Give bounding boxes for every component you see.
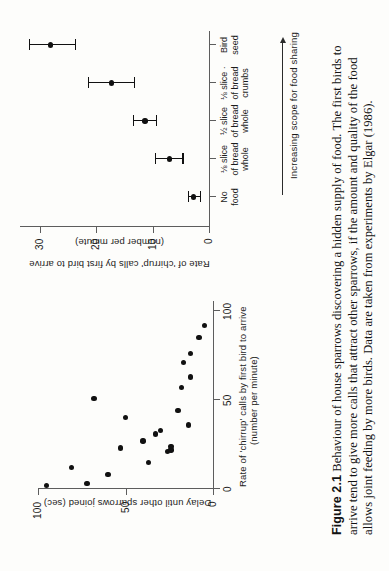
scatter-data-point (69, 465, 74, 470)
scatter-data-point (168, 444, 173, 449)
increasing-scope-arrow-label: Increasing scope for food sharing (288, 32, 299, 179)
errorbar-category-tick (210, 82, 216, 83)
scatter-data-point (153, 431, 158, 436)
errorbar-category-label: ⅛ slice ·of breadcrumbs (219, 61, 251, 105)
errorbar-category-label-line: of bread (230, 137, 241, 181)
errorbar-category-tick (210, 196, 216, 197)
scatter-plot-panel: 0 50 100 0 50 100 Rate of 'chirrup' call… (24, 291, 254, 531)
scatter-data-point (123, 415, 128, 420)
errorbar-category-label-line: ⅛ slice (219, 137, 230, 181)
errorbar-mean-marker (142, 118, 147, 123)
figure-caption-text: Behaviour of house sparrows discovering … (330, 45, 375, 535)
scatter-data-point (196, 335, 201, 340)
errorbar-cap-lower (134, 77, 135, 88)
errorbar-category-label-line: food (230, 175, 241, 219)
errorbar-category-label-line: of bread (230, 61, 241, 105)
scatter-points-layer (24, 291, 254, 531)
errorbar-cap-upper (88, 77, 89, 88)
errorbar-category-tick (210, 120, 216, 121)
errorbar-category-tick (210, 158, 216, 159)
errorbar-category-label: Birdseed (219, 23, 240, 67)
errorbar-category-label: ⅛ sliceof breadwhole (219, 137, 251, 181)
scatter-data-point (188, 374, 193, 379)
errorbar-category-label-line: of bread (230, 99, 241, 143)
scatter-data-point (158, 428, 163, 433)
scatter-data-point (146, 460, 151, 465)
errorbar-mean-marker (167, 156, 172, 161)
scatter-data-point (105, 472, 110, 477)
errorbar-category-label-line: ½ slice (219, 99, 230, 143)
figure-page: 0 50 100 0 50 100 Rate of 'chirrup' call… (0, 0, 389, 571)
errorbar-category-label-line: whole (240, 137, 251, 181)
errorbar-category-tick (210, 44, 216, 45)
scatter-data-point (175, 408, 180, 413)
figure-number: Figure 2.1 (330, 475, 344, 535)
scatter-data-point (179, 385, 184, 390)
scatter-data-point (118, 445, 123, 450)
errorbar-mean-marker (109, 80, 114, 85)
figure-caption: Figure 2.1 Behaviour of house sparrows d… (330, 35, 377, 535)
rotated-figure-stage: 0 50 100 0 50 100 Rate of 'chirrup' call… (0, 0, 389, 571)
errorbar-plot-panel: 0 10 20 30 Rate of 'chirrup' calls by fi… (14, 9, 314, 271)
errorbar-cap-upper (155, 153, 156, 164)
errorbar-cap-lower (75, 39, 76, 50)
scatter-data-point (91, 396, 96, 401)
errorbar-category-label-line: seed (230, 23, 241, 67)
errorbar-cap-lower (182, 153, 183, 164)
errorbar-category-label: ½ sliceof breadwhole (219, 99, 251, 143)
scatter-data-point (186, 422, 191, 427)
errorbar-mean-marker (48, 42, 53, 47)
scatter-data-point (188, 351, 193, 356)
errorbar-mean-marker (191, 194, 196, 199)
scatter-data-point (140, 438, 145, 443)
scatter-data-point (181, 360, 186, 365)
errorbar-cap-upper (133, 115, 134, 126)
errorbar-category-label-line: whole (240, 99, 251, 143)
errorbar-cap-lower (200, 191, 201, 202)
errorbar-category-label-line: No (219, 175, 230, 219)
errorbar-category-label: Nofood (219, 175, 240, 219)
errorbar-series-layer: Nofood⅛ sliceof breadwhole½ sliceof brea… (14, 9, 314, 271)
errorbar-category-label-line: crumbs (240, 61, 251, 105)
increasing-scope-arrow-line (282, 40, 283, 195)
errorbar-cap-upper (188, 191, 189, 202)
errorbar-cap-lower (156, 115, 157, 126)
increasing-scope-arrow-head (280, 37, 286, 43)
scatter-data-point (202, 323, 207, 328)
errorbar-category-label-line: ⅛ slice · (219, 61, 230, 105)
scatter-data-point (44, 483, 49, 488)
errorbar-cap-upper (29, 39, 30, 50)
errorbar-category-label-line: Bird (219, 23, 230, 67)
scatter-data-point (84, 481, 89, 486)
